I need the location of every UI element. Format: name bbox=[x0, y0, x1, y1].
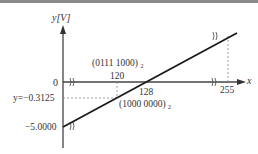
binary-120-subscript: 2 bbox=[140, 63, 143, 69]
transfer-line bbox=[63, 33, 237, 127]
binary-128-value: (1000 0000) bbox=[119, 99, 166, 110]
binary-128-annotation: (1000 0000) 2 bbox=[119, 99, 171, 110]
x-axis bbox=[63, 79, 246, 85]
binary-128-subscript: 2 bbox=[168, 104, 171, 110]
x-tick-255: 255 bbox=[220, 85, 235, 95]
axis-break-marks bbox=[70, 32, 217, 130]
binary-120-value: (0111 1000) bbox=[92, 58, 138, 69]
binary-120-annotation: (0111 1000) 2 bbox=[92, 58, 143, 69]
x-axis-label: x bbox=[246, 75, 252, 86]
y-tick-min: −5.0000 bbox=[25, 122, 57, 132]
y-tick-zero: 0 bbox=[53, 77, 58, 88]
x-tick-120: 120 bbox=[110, 71, 125, 81]
linear-adc-diagram: y[V] x 0 y=−0.3125 −5.0000 120 128 255 (… bbox=[0, 0, 258, 154]
x-tick-128: 128 bbox=[139, 87, 154, 97]
y-axis-label: y[V] bbox=[51, 12, 70, 23]
y-axis bbox=[60, 25, 66, 148]
y-tick-dashed-level: y=−0.3125 bbox=[13, 93, 55, 103]
